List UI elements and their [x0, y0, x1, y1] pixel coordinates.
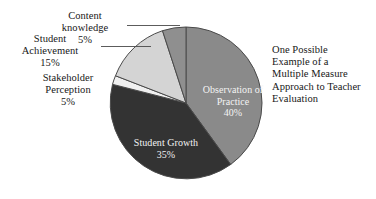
pie-chart: Content knowledge 5% Student Achievement… [0, 0, 376, 199]
chart-side-caption: One Possible Example of a Multiple Measu… [272, 44, 376, 105]
pie-label-student-achievement: Student Achievement 15% [0, 33, 100, 70]
pie-label-stakeholder-perception: Stakeholder Perception 5% [26, 72, 110, 109]
pie-label-observation-of-practice: Observation of Practice 40% [196, 84, 270, 119]
pie-label-student-growth: Student Growth 35% [122, 137, 210, 160]
